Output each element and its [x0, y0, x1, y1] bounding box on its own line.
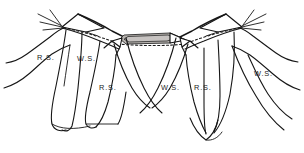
figure-container: R.S. W.S. R.S. W.S. R.S. W.S. — [0, 0, 304, 153]
label-rs-left-outer: R.S. — [37, 54, 55, 61]
left-lower-accents — [64, 45, 70, 86]
label-ws-left-inner: W.S. — [77, 55, 96, 62]
right-apex-structure — [178, 10, 266, 49]
right-outer-curves — [232, 26, 300, 90]
right-lower-tails — [232, 46, 292, 130]
center-left-fold — [114, 38, 162, 113]
label-ws-center-right: W.S. — [161, 84, 180, 91]
label-ws-right-outer: W.S. — [254, 70, 273, 77]
label-rs-center-left: R.S. — [99, 84, 117, 91]
center-right-fold — [140, 38, 188, 113]
label-rs-right-inner: R.S. — [194, 84, 212, 91]
